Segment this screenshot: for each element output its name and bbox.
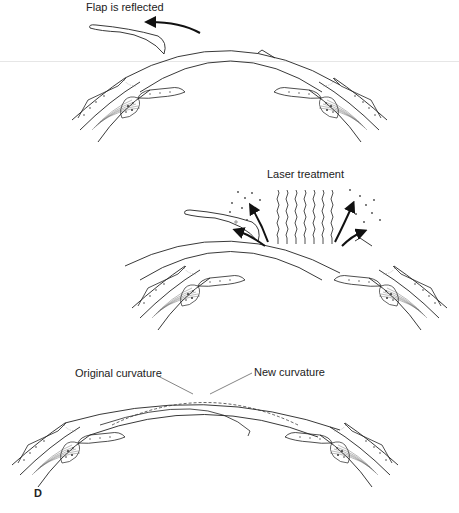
panel-letter: D [34, 487, 42, 499]
curvature-leader-lines [158, 373, 252, 394]
label-new-curvature: New curvature [254, 366, 325, 378]
panel-laser-treatment [125, 210, 447, 330]
panel-new-curvature [12, 403, 398, 488]
laser-beams [277, 190, 333, 244]
label-flap-reflected: Flap is reflected [86, 1, 164, 13]
ablation-debris-dots [229, 189, 381, 223]
lasik-procedure-diagram [0, 0, 459, 513]
label-laser-treatment: Laser treatment [267, 168, 344, 180]
panel-flap-reflected [72, 22, 387, 142]
label-original-curvature: Original curvature [75, 367, 162, 379]
